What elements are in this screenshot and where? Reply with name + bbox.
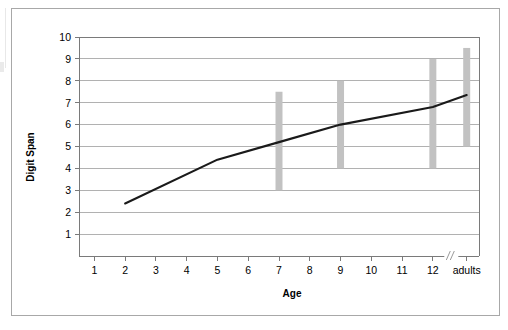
y-axis-title: Digit Span	[25, 132, 36, 181]
edge-artifact	[0, 8, 6, 68]
x-tick-labels-group: 123456789101112adults	[91, 264, 480, 276]
axis-break-group	[444, 251, 458, 260]
x-tick-label-adults: adults	[453, 264, 481, 276]
edge-artifact-secondary	[0, 62, 4, 72]
x-axis-group	[79, 256, 479, 261]
y-tick-label-2: 2	[65, 206, 71, 218]
x-tick-label-2: 2	[122, 264, 128, 276]
x-tick-label-9: 9	[338, 264, 344, 276]
x-tick-label-8: 8	[307, 264, 313, 276]
x-tick-label-7: 7	[276, 264, 282, 276]
x-tick-label-5: 5	[215, 264, 221, 276]
y-tick-label-10: 10	[59, 31, 71, 43]
y-tick-label-6: 6	[65, 118, 71, 130]
x-tick-label-3: 3	[153, 264, 159, 276]
figure-frame: Digit Span Age 12345678910 1234567891011…	[11, 8, 500, 316]
y-tick-label-9: 9	[65, 53, 71, 65]
y-tick-label-3: 3	[65, 184, 71, 196]
data-line-group	[125, 95, 467, 203]
digit-span-chart: Digit Span Age 12345678910 1234567891011…	[12, 9, 501, 317]
y-tick-labels-group: 12345678910	[59, 31, 71, 240]
y-tick-label-4: 4	[65, 162, 71, 174]
x-tick-label-1: 1	[91, 264, 97, 276]
y-tick-label-7: 7	[65, 97, 71, 109]
x-tick-label-4: 4	[184, 264, 190, 276]
y-tick-label-8: 8	[65, 75, 71, 87]
x-tick-label-10: 10	[365, 264, 377, 276]
x-tick-label-11: 11	[397, 264, 408, 276]
chart-svg: Digit Span Age 12345678910 1234567891011…	[12, 9, 501, 317]
x-tick-label-6: 6	[245, 264, 251, 276]
x-tick-label-12: 12	[427, 264, 439, 276]
x-axis-title: Age	[283, 288, 302, 299]
y-tick-label-1: 1	[65, 228, 71, 240]
y-tick-label-5: 5	[65, 140, 71, 152]
data-line-digit-span	[125, 95, 467, 203]
